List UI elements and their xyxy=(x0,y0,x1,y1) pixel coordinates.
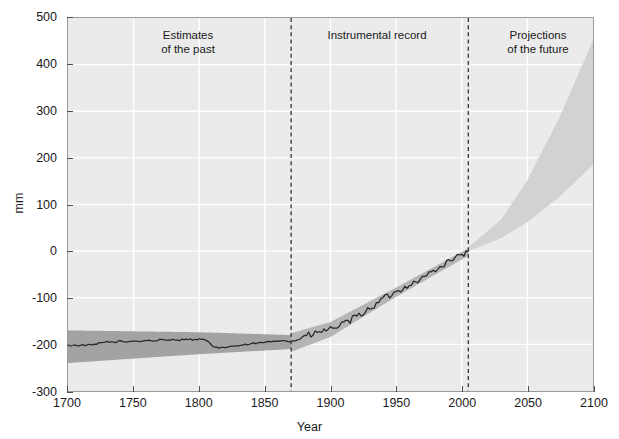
x-axis-tick-mark xyxy=(528,386,529,392)
y-axis-tick-label: 200 xyxy=(36,152,57,165)
annotation-estimates-of-the-past: Estimates of the past xyxy=(128,28,248,57)
x-axis-tick-label: 1950 xyxy=(366,397,426,410)
x-axis-tick-label: 1700 xyxy=(37,397,97,410)
sea-level-chart-figure: 5004003002001000-100-200-300 Estimates o… xyxy=(0,0,619,439)
y-axis-tick-label-group: 5004003002001000-100-200-300 xyxy=(0,0,57,439)
x-axis-tick-mark xyxy=(265,386,266,392)
y-axis-tick-mark xyxy=(67,64,73,65)
annotation-instrumental-record: Instrumental record xyxy=(312,28,442,42)
x-axis-tick-mark xyxy=(462,386,463,392)
x-axis-tick-label: 1800 xyxy=(169,397,229,410)
x-axis-tick-mark xyxy=(331,386,332,392)
x-axis-tick-mark xyxy=(396,386,397,392)
y-axis-tick-label: -200 xyxy=(32,339,57,352)
y-axis-tick-mark xyxy=(67,298,73,299)
annotation-projections-of-the-future: Projections of the future xyxy=(482,28,594,57)
y-axis-tick-label: 300 xyxy=(36,105,57,118)
y-axis-tick-mark xyxy=(67,392,73,393)
x-axis-tick-label: 1750 xyxy=(103,397,163,410)
y-axis-tick-label: 400 xyxy=(36,58,57,71)
x-axis-tick-mark xyxy=(199,386,200,392)
x-axis-tick-label: 2100 xyxy=(564,397,619,410)
x-axis-tick-mark xyxy=(594,386,595,392)
x-axis-tick-label: 2050 xyxy=(498,397,558,410)
plot-svg xyxy=(68,18,593,391)
y-axis-tick-mark xyxy=(67,17,73,18)
y-axis-tick-mark xyxy=(67,158,73,159)
x-axis-tick-mark xyxy=(67,386,68,392)
y-axis-tick-label: 0 xyxy=(50,245,57,258)
y-axis-tick-mark xyxy=(67,345,73,346)
y-axis-tick-mark xyxy=(67,251,73,252)
y-axis-title: mm xyxy=(12,173,26,233)
y-axis-tick-label: 100 xyxy=(36,199,57,212)
x-axis-tick-label: 1900 xyxy=(301,397,361,410)
x-axis-tick-label: 1850 xyxy=(235,397,295,410)
plot-area xyxy=(67,17,594,392)
y-axis-tick-mark xyxy=(67,205,73,206)
x-axis-title: Year xyxy=(0,420,619,434)
y-axis-tick-mark xyxy=(67,111,73,112)
x-axis-tick-label: 2000 xyxy=(432,397,492,410)
x-axis-tick-mark xyxy=(133,386,134,392)
y-axis-tick-label: 500 xyxy=(36,11,57,24)
y-axis-tick-label: -100 xyxy=(32,292,57,305)
